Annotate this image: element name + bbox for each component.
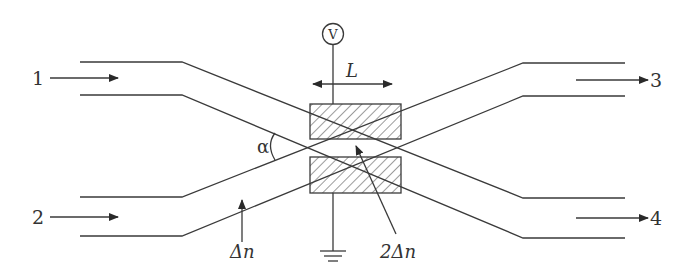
top-electrode [310,104,401,139]
delta-n-label: Δn [229,241,255,262]
ground-icon [320,193,346,261]
port-4-label: 4 [650,207,662,229]
voltage-source: V [323,24,344,105]
diagram-svg: 1 2 3 4 V L α Δn 2Δn [0,0,687,272]
coupler-diagram: 1 2 3 4 V L α Δn 2Δn [0,0,687,272]
waveguide-1-to-4 [80,62,625,238]
voltage-label: V [327,27,338,42]
port-2-label: 2 [32,206,44,228]
angle-arc [271,133,276,160]
two-delta-n-label: 2Δn [379,241,416,262]
port-3-label: 3 [650,69,662,91]
port-1-label: 1 [32,67,44,89]
bottom-electrode [310,157,401,193]
waveguide-2-to-3 [80,63,625,236]
length-label: L [345,60,358,81]
angle-label: α [257,136,269,157]
